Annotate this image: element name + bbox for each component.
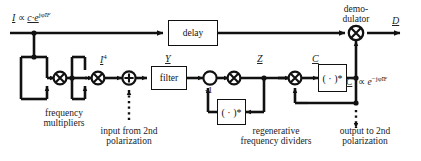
caption-freqmult-line1: frequency xyxy=(18,108,110,118)
signal-input-relation: ∝ xyxy=(18,12,25,23)
signal-input-name: I xyxy=(12,12,15,23)
gain-value-label: -1 xyxy=(205,86,213,96)
mult4-symbol xyxy=(289,72,302,85)
signal-i4-power: 4 xyxy=(103,53,107,61)
caption-regenerative-frequency-dividers: regenerative frequency dividers xyxy=(221,126,331,147)
mult1-symbol xyxy=(54,72,67,85)
demodulator-symbol xyxy=(349,26,363,40)
signal-input-exponent-sub: IF xyxy=(45,12,51,18)
caption-input2pol-line1: input from 2nd xyxy=(78,126,180,136)
gain-symbol xyxy=(203,71,216,84)
mult2-symbol xyxy=(92,72,105,85)
caption-demodulator-line1: demo- xyxy=(318,4,394,14)
caption-demodulator-line2: dulator xyxy=(318,14,394,24)
caption-regen-line1: regenerative xyxy=(221,126,331,136)
caption-output2pol-line1: output to 2nd xyxy=(318,126,412,136)
caption-input2pol-line2: polarization xyxy=(78,136,180,146)
junction-z-tap xyxy=(261,75,266,80)
signal-label-y: Y xyxy=(165,54,171,65)
junction-loop2 xyxy=(69,75,74,80)
signal-cconj-exponent: −jφ̃ xyxy=(372,75,382,83)
junction-bus-left xyxy=(31,54,36,59)
signal-label-input: I ∝ c·ejφ̃IF xyxy=(12,12,50,24)
caption-output2pol-line2: polarization xyxy=(318,136,412,146)
conjugate-block-lower[interactable]: ( · )* xyxy=(217,99,246,125)
caption-output-second-polarization: output to 2nd polarization xyxy=(318,126,412,147)
signal-label-i-fourth: I4 xyxy=(100,54,107,66)
signal-label-c: C xyxy=(312,54,319,65)
signal-cconj-exponent-sub: IF xyxy=(382,76,387,82)
junction-output-tap xyxy=(353,100,358,105)
mult3-symbol xyxy=(228,72,241,85)
signal-label-z: Z xyxy=(257,54,263,65)
signal-cconj-relation: ∝ xyxy=(358,77,365,87)
adder-symbol xyxy=(122,71,135,84)
caption-input-second-polarization: input from 2nd polarization xyxy=(78,126,180,147)
junction-input-branch xyxy=(31,30,36,35)
signal-cconj-star: * xyxy=(352,75,356,83)
signal-input-expr: c·e xyxy=(27,12,38,23)
conjugate-block-upper[interactable]: ( · )* xyxy=(318,64,347,92)
signal-label-c-conjugate: C* ∝ e−jφ̃IF xyxy=(346,76,387,87)
caption-regen-line2: frequency dividers xyxy=(221,136,331,146)
delay-block[interactable]: delay xyxy=(168,20,218,46)
filter-block[interactable]: filter xyxy=(151,66,187,90)
caption-demodulator: demo- dulator xyxy=(318,4,394,25)
block-diagram-canvas: delay filter ( · )* ( · )* I ∝ c·ejφ̃IF … xyxy=(0,0,421,161)
